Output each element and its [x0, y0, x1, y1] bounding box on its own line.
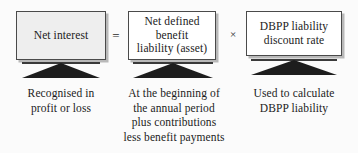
equals-operator: =	[108, 29, 124, 42]
caption-net-interest: Recognised in profit or loss	[6, 86, 116, 115]
box-net-interest: Net interest	[16, 11, 106, 60]
up-arrow-icon-net-defined-benefit-liability	[133, 62, 213, 80]
box-dbpp-liability-discount-rate-label: DBPP liability discount rate	[257, 20, 331, 47]
caption-dbpp-liability-discount-rate: Used to calculate DBPP liability	[238, 86, 350, 115]
net-interest-formula-diagram: Net interest = Net defined benefit liabi…	[0, 0, 358, 153]
arrow-triangle	[133, 63, 213, 78]
multiply-operator: ×	[225, 29, 241, 40]
caption-net-defined-benefit-liability: At the beginning of the annual period pl…	[116, 86, 232, 144]
arrow-triangle	[251, 60, 337, 75]
box-dbpp-liability-discount-rate: DBPP liability discount rate	[246, 11, 342, 56]
arrow-triangle	[22, 63, 100, 78]
box-net-interest-label: Net interest	[31, 29, 92, 43]
box-net-defined-benefit-liability: Net defined benefit liability (asset)	[128, 11, 216, 60]
up-arrow-icon-dbpp-liability-discount-rate	[251, 59, 337, 77]
box-net-defined-benefit-liability-label: Net defined benefit liability (asset)	[134, 15, 210, 56]
up-arrow-icon-net-interest	[22, 62, 100, 80]
